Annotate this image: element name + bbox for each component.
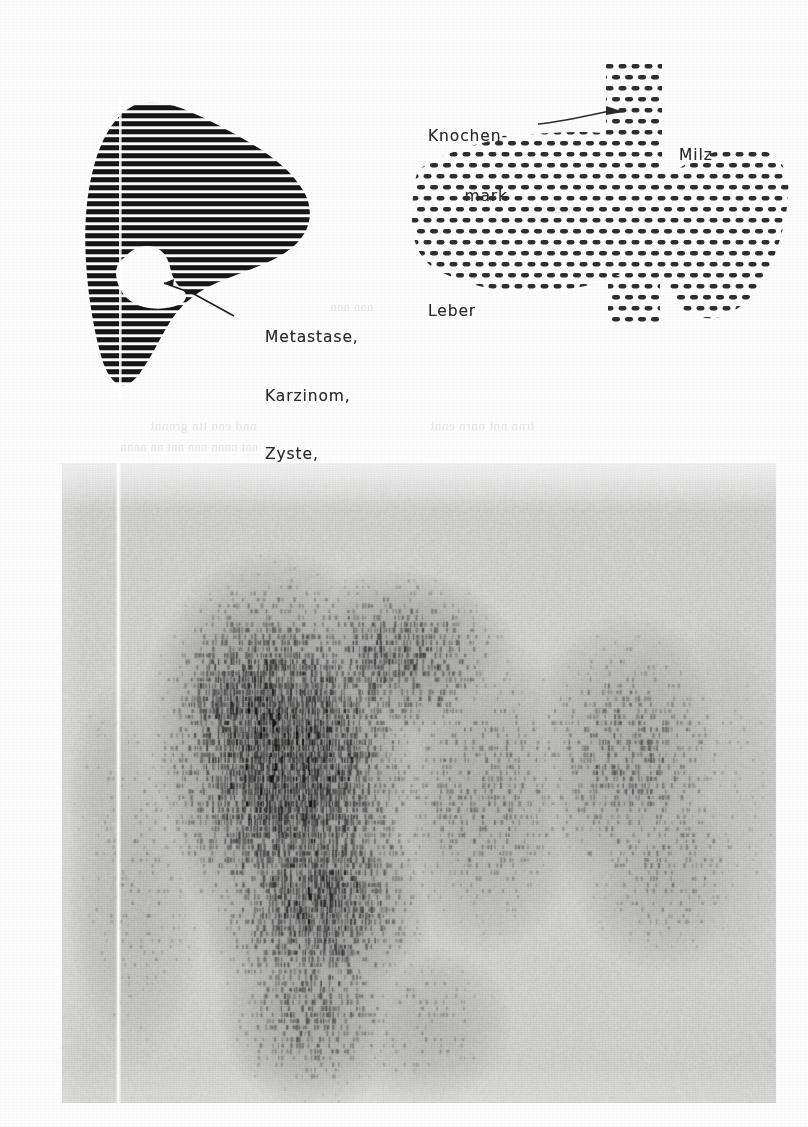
lesion-label-line-3: Zyste, (265, 445, 359, 465)
spleen-label: Milz (679, 146, 713, 166)
showthrough-text-c: nnt nnnn nnn nnt nn nnnn (120, 440, 258, 455)
scintiscan-midline-artifact (116, 463, 121, 1103)
marrow-label-line-2: mark (428, 186, 508, 206)
marrow-leader-line (538, 110, 614, 124)
liver-label: Leber (428, 302, 476, 322)
marrow-label-block: Knochen- mark (428, 86, 508, 246)
scintiscan-photo-panel (62, 463, 776, 1103)
showthrough-text-b: trnn nnt nnrn ennt (430, 418, 534, 434)
figure-page: nnd enn ttn grnnnt trnn nnt nnrn ennt nn… (0, 0, 808, 1127)
showthrough-text-a: nnd enn ttn grnnnt (150, 418, 257, 434)
scintiscan-canvas (62, 463, 776, 1103)
scanner-midline-artifact (119, 98, 122, 398)
lesion-label-line-1: Metastase, (265, 328, 359, 348)
lesion-label-line-2: Karzinom, (265, 387, 359, 407)
marrow-label-line-1: Knochen- (428, 126, 508, 146)
